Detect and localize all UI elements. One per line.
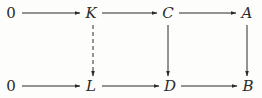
node-L: L: [86, 79, 96, 94]
commutative-diagram: 0 K C A 0 L D B: [0, 0, 262, 98]
node-B: B: [242, 79, 253, 94]
diagram-arrows: [0, 0, 262, 98]
node-zero-bottom: 0: [6, 79, 16, 94]
node-zero-top: 0: [6, 6, 16, 21]
node-K: K: [85, 6, 96, 21]
node-A: A: [242, 6, 253, 21]
node-D: D: [164, 79, 176, 94]
node-C: C: [162, 6, 173, 21]
